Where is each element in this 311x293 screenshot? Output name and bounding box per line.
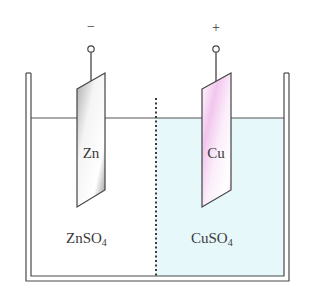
cuso4-formula: CuSO bbox=[191, 230, 228, 246]
zn-label: Zn bbox=[83, 145, 100, 161]
cu-label: Cu bbox=[207, 145, 225, 161]
cu-electrode: Cu + bbox=[202, 20, 231, 207]
zn-plate bbox=[77, 73, 105, 207]
galvanic-cell-diagram: Zn − Cu + ZnSO4 CuSO4 bbox=[0, 0, 311, 293]
znso4-formula: ZnSO bbox=[66, 230, 102, 246]
cuso4-label: CuSO4 bbox=[191, 230, 233, 248]
znso4-label: ZnSO4 bbox=[66, 230, 107, 248]
negative-polarity-label: − bbox=[87, 19, 95, 34]
cu-terminal-icon bbox=[213, 46, 219, 52]
zn-electrode: Zn − bbox=[77, 19, 105, 207]
znso4-subscript: 4 bbox=[102, 237, 107, 248]
zn-terminal-icon bbox=[88, 46, 94, 52]
cuso4-subscript: 4 bbox=[228, 237, 233, 248]
cu-plate bbox=[202, 73, 231, 207]
positive-polarity-label: + bbox=[212, 20, 220, 35]
